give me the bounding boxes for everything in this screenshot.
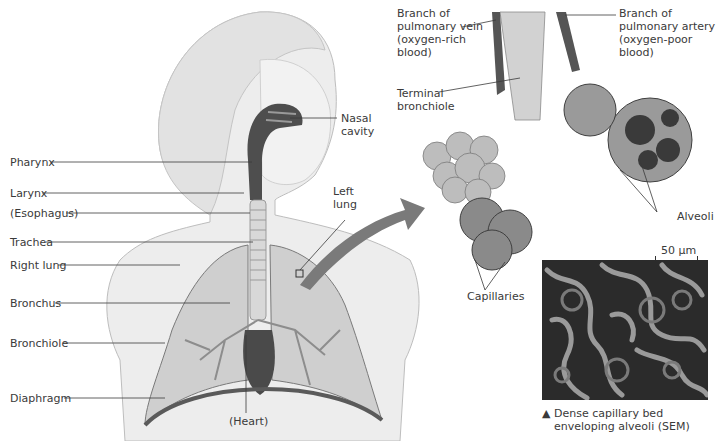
label-right-lung: Right lung [10, 259, 66, 272]
label-heart: (Heart) [229, 415, 268, 428]
sem-caption: ▲ Dense capillary bed enveloping alveoli… [542, 407, 690, 433]
label-left-lung: Left lung [333, 185, 357, 211]
capillary-cluster [460, 198, 532, 270]
label-esophagus: (Esophagus) [10, 207, 78, 220]
sem-texture [542, 260, 708, 400]
label-larynx: Larynx [10, 187, 47, 200]
pulmonary-artery-shape [556, 12, 580, 72]
label-bronchus: Bronchus [10, 297, 61, 310]
label-capillaries: Capillaries [467, 290, 524, 303]
sem-micrograph [542, 260, 708, 400]
label-pulmonary-vein: Branch of pulmonary vein (oxygen-rich bl… [397, 7, 483, 59]
label-nasal-cavity: Nasal cavity [341, 112, 374, 138]
label-terminal-bronchiole: Terminal bronchiole [397, 87, 455, 113]
scale-label: 50 µm [661, 244, 696, 257]
label-alveoli: Alveoli [677, 210, 714, 223]
label-pulmonary-artery: Branch of pulmonary artery (oxygen-poor … [619, 7, 715, 59]
label-bronchiole: Bronchiole [10, 337, 68, 350]
label-trachea: Trachea [10, 236, 53, 249]
terminal-bronchiole-shape [500, 12, 545, 120]
label-pharynx: Pharynx [10, 156, 55, 169]
triangle-marker-icon: ▲ [542, 407, 550, 420]
label-diaphragm: Diaphragm [10, 392, 71, 405]
